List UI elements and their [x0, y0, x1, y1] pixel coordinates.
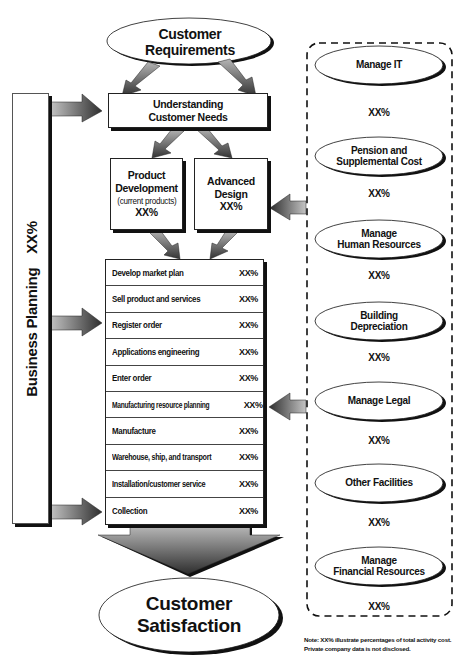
understanding-line1: Understanding: [153, 98, 223, 111]
support-building-pct: XX%: [306, 352, 452, 363]
activity-pct: XX%: [239, 294, 258, 304]
activity-pct: XX%: [239, 320, 258, 330]
support-other-facilities-pct: XX%: [306, 517, 452, 528]
support-human-resources-pct: XX%: [306, 270, 452, 281]
activity-row: Sell product and servicesXX%: [106, 286, 263, 312]
footnote: Note: XX% illustrate percentages of tota…: [304, 636, 451, 654]
product-dev-line1: Product: [128, 169, 166, 182]
advanced-design-box: Advanced Design XX%: [194, 158, 268, 230]
customer-satisfaction-line2: Satisfaction: [137, 615, 241, 637]
advanced-design-line1: Advanced: [207, 175, 255, 188]
support-financial-pct: XX%: [306, 601, 452, 612]
support-line1: Other Facilities: [345, 477, 412, 489]
arrow-needs-to-advanced-design: [196, 128, 232, 158]
arrow-requirements-to-needs-right: [218, 59, 256, 96]
arrow-business-planning-to-needs: [50, 94, 102, 122]
activity-label: Collection: [112, 506, 147, 516]
support-line1: Manage: [361, 555, 396, 567]
footnote-line2: Private company data is not disclosed.: [304, 645, 451, 654]
activity-pct: XX%: [239, 506, 258, 516]
support-legal-pct: XX%: [306, 435, 452, 446]
activity-pct: XX%: [239, 479, 258, 489]
advanced-design-line2: Design: [214, 188, 247, 201]
activity-row: Manufacturing resource planningXX%: [106, 392, 263, 418]
arrow-support-to-advanced-design: [270, 194, 306, 220]
support-other-facilities: Other Facilities: [318, 465, 440, 501]
business-planning-label: Business PlanningXX%: [22, 221, 39, 397]
support-line2: Depreciation: [351, 321, 408, 333]
customer-satisfaction-line1: Customer: [146, 593, 232, 615]
activity-row: Installation/customer serviceXX%: [106, 471, 263, 497]
footnote-line1: Note: XX% illustrate percentages of tota…: [304, 636, 451, 645]
support-line1: Manage IT: [356, 59, 402, 71]
support-pension: Pension and Supplemental Cost: [318, 138, 440, 174]
customer-requirements-line2: Requirements: [145, 42, 235, 58]
business-planning-pct: XX%: [22, 221, 39, 253]
support-line2: Financial Resources: [333, 566, 425, 578]
support-legal: Manage Legal: [318, 383, 440, 419]
arrow-needs-to-product-dev: [152, 129, 184, 158]
support-financial: Manage Financial Resources: [318, 548, 440, 584]
activity-label: Sell product and services: [112, 294, 200, 304]
activity-row: Warehouse, ship, and transportXX%: [106, 445, 263, 471]
customer-requirements-line1: Customer: [159, 26, 222, 42]
support-line1: Building: [360, 310, 398, 322]
support-building: Building Depreciation: [318, 303, 440, 339]
activity-row: Register orderXX%: [106, 313, 263, 339]
activity-pct: XX%: [239, 373, 258, 383]
activity-row: Enter orderXX%: [106, 366, 263, 392]
customer-requirements: Customer Requirements: [110, 20, 270, 64]
support-manage-it-pct: XX%: [306, 107, 452, 118]
understanding-line2: Customer Needs: [148, 111, 227, 124]
support-line1: Manage Legal: [348, 395, 411, 407]
arrow-business-planning-to-register-order: [50, 308, 102, 336]
activity-pct: XX%: [239, 347, 258, 357]
support-line1: Pension and: [351, 145, 407, 157]
activity-label: Enter order: [112, 373, 151, 383]
business-planning-text: Business Planning: [22, 267, 39, 396]
activity-row: Applications engineeringXX%: [106, 339, 263, 365]
support-line2: Supplemental Cost: [336, 156, 421, 168]
activity-label: Manufacturing resource planning: [112, 400, 209, 410]
arrow-product-dev-to-activities: [148, 230, 180, 259]
support-line1: Manage: [361, 228, 396, 240]
arrow-requirements-to-needs-left: [122, 62, 160, 96]
arrow-activities-to-satisfaction: [98, 524, 284, 577]
business-planning-bar: Business PlanningXX%: [12, 93, 49, 524]
product-development-box: Product Development (current products) X…: [110, 158, 183, 230]
support-line2: Human Resources: [337, 239, 420, 251]
product-dev-line2: Development: [115, 182, 178, 195]
activity-label: Applications engineering: [112, 347, 199, 357]
activity-pct: XX%: [239, 426, 258, 436]
product-dev-pct: XX%: [135, 206, 157, 219]
customer-satisfaction: Customer Satisfaction: [100, 585, 278, 645]
activity-row: Develop market planXX%: [106, 260, 263, 286]
activity-row: ManufactureXX%: [106, 418, 263, 444]
activity-pct: XX%: [239, 452, 258, 462]
arrow-advanced-design-to-activities: [210, 231, 238, 259]
activity-row: CollectionXX%: [106, 498, 263, 524]
arrow-business-planning-to-collection: [50, 498, 102, 525]
activity-label: Manufacture: [112, 426, 156, 436]
activity-pct: XX%: [239, 268, 258, 278]
product-dev-line3: (current products): [117, 195, 176, 206]
activity-label: Installation/customer service: [112, 479, 205, 489]
activity-label: Register order: [112, 320, 162, 330]
support-manage-it: Manage IT: [318, 47, 440, 83]
activity-pct: XX%: [244, 400, 263, 410]
understanding-customer-needs-box: Understanding Customer Needs: [108, 93, 268, 128]
activity-label: Develop market plan: [112, 268, 184, 278]
support-pension-pct: XX%: [306, 188, 452, 199]
advanced-design-pct: XX%: [220, 200, 242, 213]
support-human-resources: Manage Human Resources: [318, 221, 440, 257]
activity-list: Develop market planXX% Sell product and …: [105, 259, 264, 525]
activity-label: Warehouse, ship, and transport: [112, 452, 211, 462]
arrow-support-to-mrp: [269, 393, 306, 420]
